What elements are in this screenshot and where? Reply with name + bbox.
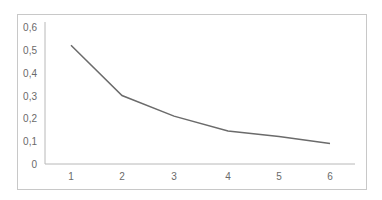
x-tick-label: 5 xyxy=(276,171,282,182)
x-tick-label: 4 xyxy=(225,171,231,182)
y-tick-label: 0 xyxy=(31,159,37,170)
x-tick-label: 2 xyxy=(119,171,125,182)
x-tick-label: 1 xyxy=(68,171,74,182)
x-tick-label: 6 xyxy=(327,171,333,182)
x-tick-label: 3 xyxy=(171,171,177,182)
y-tick-label: 0,1 xyxy=(23,136,37,147)
line-chart: 00,10,20,30,40,50,6 123456 xyxy=(0,0,382,200)
x-axis-ticks: 123456 xyxy=(68,171,333,182)
y-tick-label: 0,6 xyxy=(23,22,37,33)
y-tick-label: 0,4 xyxy=(23,68,37,79)
y-axis-ticks: 00,10,20,30,40,50,6 xyxy=(23,22,37,170)
y-tick-label: 0,5 xyxy=(23,45,37,56)
y-tick-label: 0,2 xyxy=(23,113,37,124)
series-line xyxy=(71,45,330,143)
y-tick-label: 0,3 xyxy=(23,91,37,102)
